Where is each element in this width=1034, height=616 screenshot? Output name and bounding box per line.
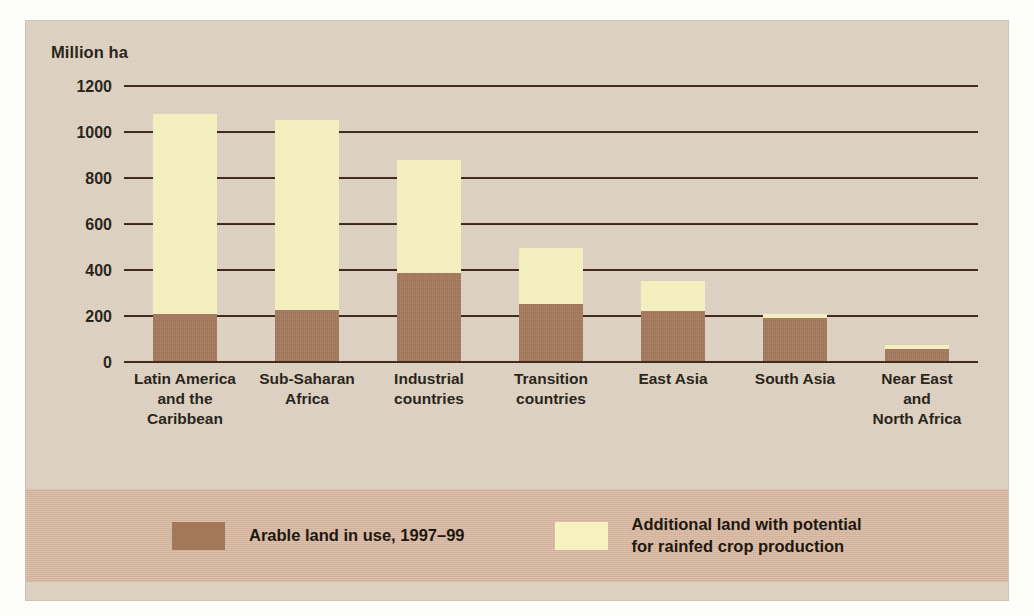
bar-slot (246, 85, 368, 361)
legend-item[interactable]: Additional land with potential for rainf… (555, 514, 862, 557)
stacked-bar[interactable] (763, 314, 827, 361)
x-axis-tick-labels: Latin America and the CaribbeanSub-Sahar… (124, 369, 978, 428)
stacked-bar[interactable] (885, 345, 949, 361)
bar-segment-arable-land[interactable] (519, 304, 583, 361)
legend-swatch-icon (555, 522, 608, 550)
stacked-bar[interactable] (397, 160, 461, 361)
y-tick-label-200: 200 (85, 308, 112, 326)
bar-slot (612, 85, 734, 361)
legend-label: Arable land in use, 1997–99 (249, 525, 465, 546)
y-tick-label-400: 400 (85, 262, 112, 280)
x-axis-category-label: Sub-Saharan Africa (246, 369, 368, 428)
x-axis-category-label: Near East and North Africa (856, 369, 978, 428)
legend-item[interactable]: Arable land in use, 1997–99 (172, 522, 465, 550)
bar-segment-arable-land[interactable] (153, 314, 217, 361)
x-axis-category-label: Latin America and the Caribbean (124, 369, 246, 428)
stacked-bar[interactable] (275, 120, 339, 361)
bar-segment-potential-land[interactable] (153, 114, 217, 315)
x-axis-category-label: South Asia (734, 369, 856, 428)
bar-segment-potential-land[interactable] (519, 248, 583, 304)
gridline-0: 0 (124, 361, 978, 363)
legend-label: Additional land with potential for rainf… (632, 514, 862, 557)
bar-segment-potential-land[interactable] (397, 160, 461, 273)
plot-area: Million ha 020040060080010001200 Latin A… (26, 21, 1008, 489)
stacked-bar[interactable] (519, 248, 583, 361)
figure-panel: Million ha 020040060080010001200 Latin A… (26, 21, 1008, 600)
y-tick-label-0: 0 (103, 354, 112, 372)
bar-slot (124, 85, 246, 361)
bar-segment-arable-land[interactable] (275, 310, 339, 361)
y-axis-title: Million ha (51, 43, 128, 62)
bar-slot (734, 85, 856, 361)
bar-slot (368, 85, 490, 361)
y-tick-label-800: 800 (85, 170, 112, 188)
chart-plot: 020040060080010001200 (124, 85, 978, 361)
legend-swatch-icon (172, 522, 225, 550)
bar-segment-potential-land[interactable] (275, 120, 339, 310)
bar-slot (490, 85, 612, 361)
x-axis-category-label: Industrial countries (368, 369, 490, 428)
y-tick-label-600: 600 (85, 216, 112, 234)
bar-slot (856, 85, 978, 361)
x-axis-category-label: Transition countries (490, 369, 612, 428)
bar-segment-arable-land[interactable] (763, 318, 827, 361)
y-tick-label-1200: 1200 (76, 78, 112, 96)
bar-segment-arable-land[interactable] (641, 311, 705, 361)
bar-segment-potential-land[interactable] (641, 281, 705, 311)
bar-segment-arable-land[interactable] (397, 273, 461, 361)
stacked-bar[interactable] (153, 114, 217, 361)
bar-group (124, 85, 978, 361)
stacked-bar[interactable] (641, 281, 705, 361)
chart-legend: Arable land in use, 1997–99Additional la… (26, 489, 1008, 582)
x-axis-category-label: East Asia (612, 369, 734, 428)
bar-segment-arable-land[interactable] (885, 349, 949, 361)
y-tick-label-1000: 1000 (76, 124, 112, 142)
